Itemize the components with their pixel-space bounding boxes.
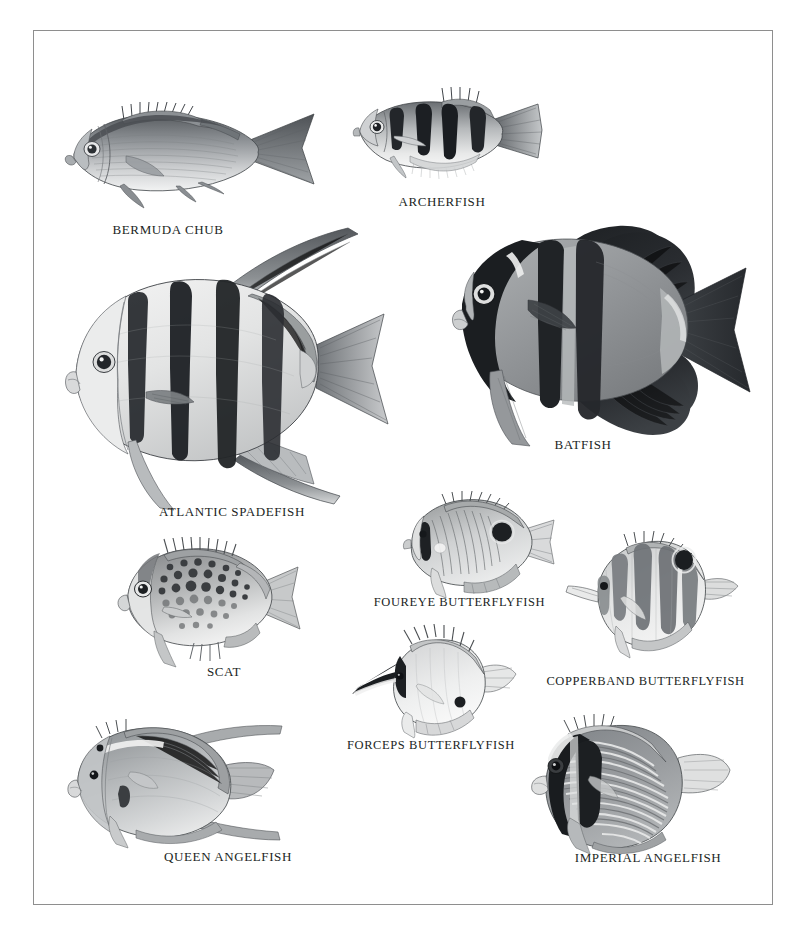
- caption-forceps-butterflyfish: FORCEPS BUTTERFLYFISH: [347, 738, 507, 753]
- caption-scat: SCAT: [202, 664, 246, 680]
- caption-atlantic-spadefish: ATLANTIC SPADEFISH: [142, 504, 322, 520]
- fish-plate: BERMUDA CHUB: [0, 0, 806, 928]
- figure-bermuda-chub: [62, 96, 322, 211]
- figure-forceps-butterflyfish: [350, 628, 520, 738]
- figure-foureye-butterflyfish: [402, 494, 562, 599]
- figure-copperband-butterflyfish: [566, 534, 746, 659]
- caption-imperial-angelfish: IMPERIAL ANGELFISH: [568, 850, 728, 866]
- caption-batfish: BATFISH: [548, 437, 618, 453]
- caption-copperband-butterflyfish: COPPERBAND BUTTERFLYFISH: [543, 674, 748, 689]
- figure-imperial-angelfish: [518, 724, 738, 854]
- figure-scat: [116, 537, 316, 667]
- caption-foureye-butterflyfish: FOUREYE BUTTERFLYFISH: [372, 595, 547, 610]
- caption-queen-angelfish: QUEEN ANGELFISH: [158, 849, 298, 865]
- figure-atlantic-spadefish: [62, 228, 402, 508]
- caption-archerfish: ARCHERFISH: [394, 194, 490, 210]
- figure-queen-angelfish: [66, 718, 306, 848]
- figure-batfish: [446, 226, 766, 446]
- figure-archerfish: [352, 82, 552, 187]
